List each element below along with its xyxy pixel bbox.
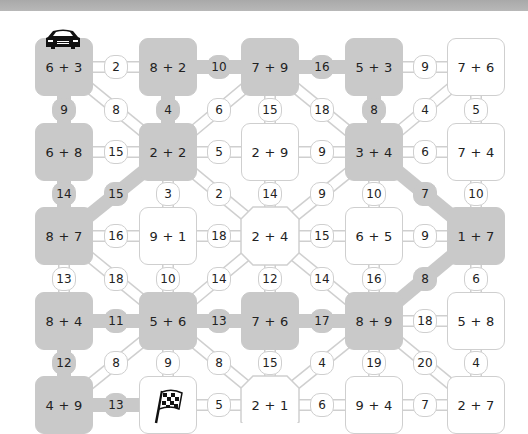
path-value-badge[interactable]: 5 [464,98,488,122]
sum-node[interactable]: 2 + 9 [241,123,299,181]
sum-label: 5 + 3 [355,60,392,75]
sum-node[interactable]: 9 + 1 [139,207,197,265]
path-value-badge[interactable]: 15 [258,98,282,122]
sum-node[interactable]: 7 + 9 [241,38,299,96]
path-value-badge[interactable]: 20 [413,351,437,375]
path-value-badge[interactable]: 10 [156,267,180,291]
sum-node[interactable]: 2 + 1 [241,376,299,434]
race-car-icon [44,28,82,50]
path-value-badge[interactable]: 17 [310,309,334,333]
path-value-badge[interactable]: 6 [310,393,334,417]
sum-node[interactable]: 2 + 4 [241,207,299,265]
sum-node[interactable]: 8 + 2 [139,38,197,96]
sum-label: 4 + 9 [45,398,82,413]
sum-label: 2 + 4 [251,229,288,244]
sum-label: 6 + 8 [45,145,82,160]
path-value-badge[interactable]: 8 [104,98,128,122]
path-value-badge[interactable]: 14 [207,267,231,291]
path-value-badge[interactable]: 15 [310,224,334,248]
path-value-badge[interactable]: 5 [207,393,231,417]
sum-label: 9 + 1 [149,229,186,244]
path-value-badge[interactable]: 11 [104,309,128,333]
sum-label: 8 + 7 [45,229,82,244]
path-value-badge[interactable]: 6 [207,98,231,122]
path-value-badge[interactable]: 16 [104,224,128,248]
path-value-badge[interactable]: 4 [413,98,437,122]
path-value-badge[interactable]: 10 [464,182,488,206]
path-value-badge[interactable]: 4 [464,351,488,375]
path-value-badge[interactable]: 10 [207,55,231,79]
path-value-badge[interactable]: 9 [310,140,334,164]
path-value-badge[interactable]: 14 [258,182,282,206]
path-value-badge[interactable]: 2 [207,182,231,206]
path-value-badge[interactable]: 8 [104,351,128,375]
path-value-badge[interactable]: 10 [362,182,386,206]
path-value-badge[interactable]: 9 [413,224,437,248]
path-value-badge[interactable]: 5 [207,140,231,164]
sum-node[interactable]: 4 + 9 [35,376,93,434]
path-value-badge[interactable]: 19 [362,351,386,375]
path-value-badge[interactable]: 7 [413,182,437,206]
sum-node[interactable]: 3 + 4 [345,123,403,181]
path-value-badge[interactable]: 16 [310,55,334,79]
sum-label: 1 + 7 [457,229,494,244]
sum-node[interactable]: 1 + 7 [447,207,505,265]
sum-label: 7 + 6 [251,314,288,329]
path-value-badge[interactable]: 8 [413,267,437,291]
path-value-badge[interactable]: 3 [156,182,180,206]
path-value-badge[interactable]: 13 [207,309,231,333]
sum-label: 5 + 6 [149,314,186,329]
path-value-badge[interactable]: 4 [156,98,180,122]
path-value-badge[interactable]: 9 [52,98,76,122]
path-value-badge[interactable]: 4 [310,351,334,375]
sum-label: 8 + 4 [45,314,82,329]
path-value-badge[interactable]: 15 [104,182,128,206]
path-value-badge[interactable]: 16 [362,267,386,291]
sum-node[interactable]: 5 + 6 [139,292,197,350]
sum-label: 9 + 4 [355,398,392,413]
sum-label: 7 + 4 [457,145,494,160]
path-value-badge[interactable]: 15 [104,140,128,164]
path-value-badge[interactable]: 15 [258,351,282,375]
path-value-badge[interactable]: 18 [413,309,437,333]
path-value-badge[interactable]: 14 [310,267,334,291]
sum-label: 2 + 7 [457,398,494,413]
sum-node[interactable]: 5 + 8 [447,292,505,350]
path-value-badge[interactable]: 13 [52,267,76,291]
sum-label: 7 + 6 [457,60,494,75]
sum-node[interactable]: 7 + 6 [447,38,505,96]
sum-node[interactable]: 7 + 4 [447,123,505,181]
sum-node[interactable]: 8 + 7 [35,207,93,265]
sum-node[interactable]: 6 + 8 [35,123,93,181]
path-value-badge[interactable]: 13 [104,393,128,417]
sum-node[interactable]: 2 + 7 [447,376,505,434]
checkered-flag-icon [148,385,188,425]
sum-node[interactable]: 8 + 4 [35,292,93,350]
path-value-badge[interactable]: 18 [310,98,334,122]
sum-node[interactable]: 8 + 9 [345,292,403,350]
path-value-badge[interactable]: 12 [52,351,76,375]
sum-node[interactable]: 7 + 6 [241,292,299,350]
path-value-badge[interactable]: 18 [207,224,231,248]
path-value-badge[interactable]: 9 [310,182,334,206]
sum-node[interactable]: 2 + 2 [139,123,197,181]
path-value-badge[interactable]: 6 [413,140,437,164]
path-value-badge[interactable]: 2 [104,55,128,79]
sum-node[interactable]: 5 + 3 [345,38,403,96]
path-value-badge[interactable]: 8 [207,351,231,375]
sum-label: 2 + 1 [251,398,288,413]
path-value-badge[interactable]: 7 [413,393,437,417]
path-value-badge[interactable]: 6 [464,267,488,291]
path-value-badge[interactable]: 18 [104,267,128,291]
sum-label: 3 + 4 [355,145,392,160]
path-value-badge[interactable]: 8 [362,98,386,122]
path-value-badge[interactable]: 9 [413,55,437,79]
path-value-badge[interactable]: 12 [258,267,282,291]
path-value-badge[interactable]: 9 [156,351,180,375]
sum-node[interactable]: 6 + 5 [345,207,403,265]
path-value-badge[interactable]: 14 [52,182,76,206]
sum-label: 6 + 3 [45,60,82,75]
sum-node[interactable]: 9 + 4 [345,376,403,434]
finish-node[interactable] [139,376,197,434]
